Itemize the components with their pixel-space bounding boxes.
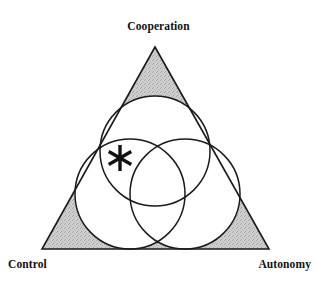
circle-interiors xyxy=(75,96,240,249)
venn-triangle-graphic xyxy=(0,0,317,287)
vertex-label-cooperation: Cooperation xyxy=(0,21,317,33)
diagram-canvas: Cooperation Control Autonomy xyxy=(0,0,317,287)
vertex-label-autonomy: Autonomy xyxy=(258,259,311,271)
vertex-label-control: Control xyxy=(8,259,47,271)
